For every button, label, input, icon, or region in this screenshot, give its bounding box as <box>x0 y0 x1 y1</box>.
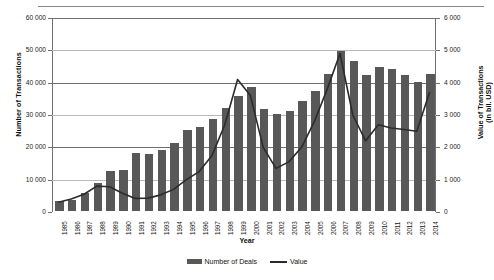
x-tick-label: 2009 <box>368 221 375 235</box>
x-tick-label: 2000 <box>253 221 260 235</box>
x-tick-label: 2012 <box>406 221 413 235</box>
y-tick-mark-right <box>436 212 440 213</box>
x-tick-label: 1999 <box>240 221 247 235</box>
line-series <box>52 18 436 212</box>
y-tick-mark-right <box>436 18 440 19</box>
y-tick-label-left: 50 000 <box>6 46 46 53</box>
x-tick-label: 1997 <box>214 221 221 235</box>
x-axis-ticks: 1985198619871988198919901991199219931994… <box>52 214 436 238</box>
legend-item-value: Value <box>270 258 307 265</box>
x-tick-label: 1995 <box>189 221 196 235</box>
y-tick-label-left: 30 000 <box>6 111 46 118</box>
bar-swatch-icon <box>187 259 202 264</box>
y-tick-mark-right <box>436 115 440 116</box>
plot-area <box>52 18 436 212</box>
x-tick-label: 1990 <box>125 221 132 235</box>
top-divider <box>38 6 484 7</box>
x-tick-label: 1998 <box>227 221 234 235</box>
value-line <box>58 54 429 203</box>
y-tick-label-right: 5 000 <box>444 46 484 53</box>
x-tick-label: 1987 <box>86 221 93 235</box>
x-tick-label: 1988 <box>99 221 106 235</box>
legend-item-deals: Number of Deals <box>187 258 258 265</box>
x-tick-label: 1994 <box>176 221 183 235</box>
y-tick-mark-right <box>436 50 440 51</box>
x-tick-label: 2002 <box>278 221 285 235</box>
x-tick-label: 2010 <box>381 221 388 235</box>
x-tick-label: 1992 <box>150 221 157 235</box>
y-tick-mark-right <box>436 180 440 181</box>
y-tick-label-left: 0 <box>6 208 46 215</box>
x-tick-label: 1991 <box>138 221 145 235</box>
y-tick-mark-left <box>48 115 52 116</box>
y-tick-label-right: 1 000 <box>444 176 484 183</box>
x-tick-label: 2011 <box>394 222 401 235</box>
y-tick-mark-left <box>48 18 52 19</box>
y-tick-label-right: 6 000 <box>444 14 484 21</box>
x-tick-label: 2013 <box>419 221 426 235</box>
y-tick-label-right: 4 000 <box>444 79 484 86</box>
y-axis-right-title-line2: (in bil. USD) <box>484 82 493 123</box>
x-tick-label: 2004 <box>304 221 311 235</box>
chart-figure: Number of Transactions Value of Transact… <box>0 0 494 280</box>
legend-label-value: Value <box>290 258 307 265</box>
y-tick-mark-right <box>436 147 440 148</box>
x-tick-label: 2003 <box>291 221 298 235</box>
y-tick-label-right: 0 <box>444 208 484 215</box>
x-tick-label: 1996 <box>202 221 209 235</box>
line-swatch-icon <box>270 261 287 263</box>
x-tick-label: 1989 <box>112 221 119 235</box>
chart-legend: Number of Deals Value <box>0 258 494 265</box>
x-tick-label: 2007 <box>342 221 349 235</box>
x-tick-label: 2006 <box>330 221 337 235</box>
y-tick-mark-left <box>48 212 52 213</box>
legend-label-deals: Number of Deals <box>205 258 258 265</box>
x-tick-label: 2005 <box>317 221 324 235</box>
x-tick-label: 2014 <box>432 221 439 235</box>
y-tick-label-left: 40 000 <box>6 79 46 86</box>
x-tick-label: 2001 <box>266 221 273 235</box>
y-tick-mark-left <box>48 147 52 148</box>
y-tick-label-right: 3 000 <box>444 111 484 118</box>
x-tick-label: 2008 <box>355 221 362 235</box>
y-tick-mark-left <box>48 83 52 84</box>
x-tick-label: 1985 <box>61 221 68 235</box>
y-tick-mark-left <box>48 50 52 51</box>
y-tick-label-left: 10 000 <box>6 176 46 183</box>
x-tick-label: 1986 <box>74 221 81 235</box>
y-tick-label-right: 2 000 <box>444 143 484 150</box>
y-tick-label-left: 60 000 <box>6 14 46 21</box>
x-tick-label: 1993 <box>163 221 170 235</box>
y-tick-mark-left <box>48 180 52 181</box>
y-tick-mark-right <box>436 83 440 84</box>
y-tick-label-left: 20 000 <box>6 143 46 150</box>
